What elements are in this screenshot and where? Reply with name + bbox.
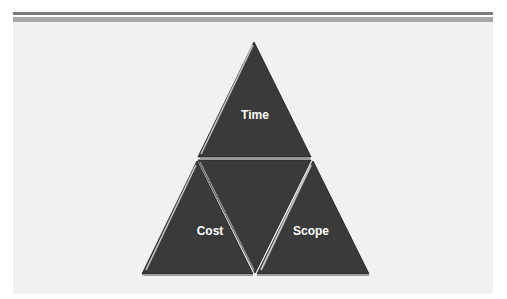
segment-time xyxy=(198,42,311,157)
label-scope: Scope xyxy=(293,224,329,238)
label-time: Time xyxy=(241,108,269,122)
label-cost: Cost xyxy=(197,224,224,238)
project-triangle-diagram: Time Cost Scope xyxy=(0,0,507,299)
